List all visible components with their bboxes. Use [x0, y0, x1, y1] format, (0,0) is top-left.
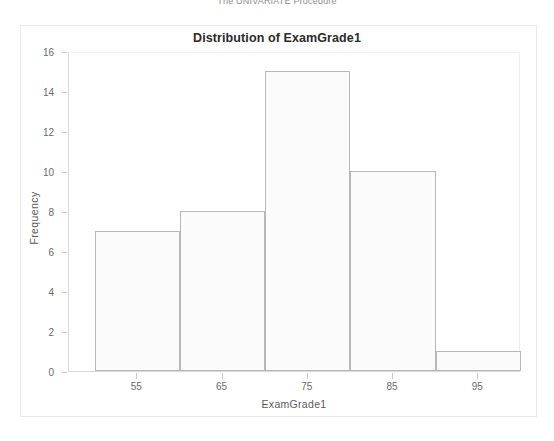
x-tick-label-65: 65: [202, 381, 242, 392]
y-tick-mark: [62, 292, 67, 293]
x-tick-mark: [477, 373, 478, 379]
y-tick-label-12: 12: [10, 127, 54, 138]
y-tick-mark: [62, 132, 67, 133]
y-tick-mark: [62, 172, 67, 173]
bar-95: [436, 351, 521, 371]
x-tick-label-95: 95: [457, 381, 497, 392]
bar-65: [180, 211, 265, 371]
x-tick-label-85: 85: [372, 381, 412, 392]
y-tick-label-16: 16: [10, 47, 54, 58]
y-tick-label-14: 14: [10, 87, 54, 98]
y-tick-mark: [62, 212, 67, 213]
x-tick-mark: [136, 373, 137, 379]
plot-area: [68, 52, 520, 372]
y-tick-label-0: 0: [10, 367, 54, 378]
y-tick-label-6: 6: [10, 247, 54, 258]
x-tick-label-55: 55: [116, 381, 156, 392]
y-tick-label-10: 10: [10, 167, 54, 178]
bar-85: [350, 171, 435, 371]
y-tick-mark: [62, 52, 67, 53]
procedure-header: The UNIVARIATE Procedure: [0, 0, 554, 5]
y-tick-mark: [62, 372, 67, 373]
y-tick-mark: [62, 92, 67, 93]
x-tick-mark: [392, 373, 393, 379]
bar-55: [95, 231, 180, 371]
x-tick-mark: [222, 373, 223, 379]
chart-title: Distribution of ExamGrade1: [0, 31, 554, 45]
x-tick-label-75: 75: [287, 381, 327, 392]
bar-75: [265, 71, 350, 371]
y-tick-mark: [62, 252, 67, 253]
x-tick-mark: [307, 373, 308, 379]
y-tick-label-4: 4: [10, 287, 54, 298]
y-tick-label-2: 2: [10, 327, 54, 338]
bar-series: [69, 53, 519, 371]
x-axis-title: ExamGrade1: [68, 398, 520, 410]
y-tick-mark: [62, 332, 67, 333]
y-tick-label-8: 8: [10, 207, 54, 218]
